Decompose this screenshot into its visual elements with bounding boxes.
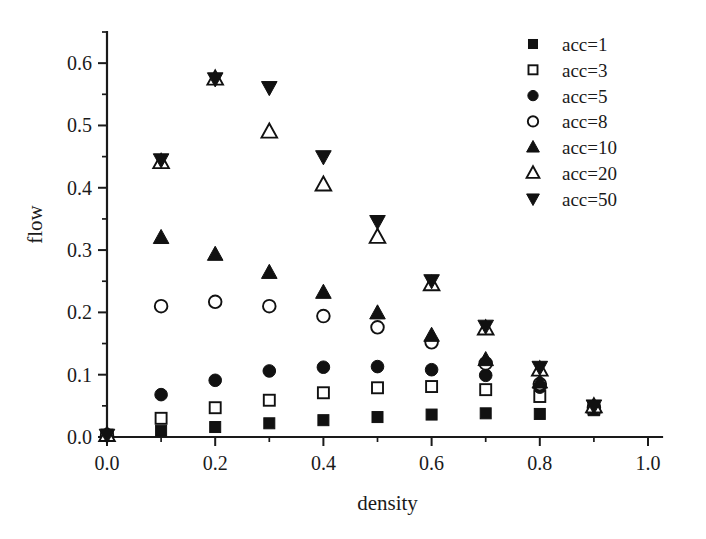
- chart-legend: acc=1acc=3acc=5acc=8acc=10acc=20acc=50: [527, 34, 617, 210]
- legend-marker-icon: [528, 65, 537, 74]
- data-point-marker: [317, 310, 330, 323]
- legend-marker-icon: [527, 166, 540, 178]
- data-point-marker: [425, 363, 438, 376]
- x-axis-title: density: [357, 491, 418, 515]
- legend-marker-icon: [528, 116, 538, 126]
- data-point-marker: [371, 360, 384, 373]
- legend-label: acc=20: [562, 163, 617, 184]
- data-point-marker: [156, 425, 167, 436]
- legend-item-acc-3: acc=3: [528, 60, 607, 81]
- data-point-marker: [316, 151, 332, 165]
- legend-label: acc=10: [562, 137, 617, 158]
- data-point-marker: [209, 295, 222, 308]
- data-point-marker: [264, 395, 275, 406]
- data-point-marker: [478, 352, 494, 366]
- series-acc-5: [101, 360, 601, 441]
- data-point-marker: [316, 284, 332, 298]
- x-axis-tick-label: 0.0: [95, 452, 120, 474]
- legend-marker-icon: [528, 39, 537, 48]
- data-point-marker: [155, 388, 168, 401]
- legend-marker-icon: [527, 194, 540, 206]
- legend-item-acc-20: acc=20: [527, 163, 617, 184]
- data-point-marker: [316, 176, 332, 190]
- data-point-marker: [370, 216, 386, 230]
- y-axis-tick-label: 0.6: [67, 52, 92, 74]
- data-point-marker: [318, 387, 329, 398]
- data-point-marker: [155, 300, 168, 313]
- data-point-marker: [479, 369, 492, 382]
- data-point-marker: [480, 408, 491, 419]
- data-point-marker: [372, 382, 383, 393]
- legend-item-acc-1: acc=1: [528, 34, 607, 55]
- data-point-marker: [534, 408, 545, 419]
- x-axis-tick-label: 0.8: [527, 452, 552, 474]
- data-point-marker: [263, 365, 276, 378]
- data-point-marker: [371, 321, 384, 334]
- data-point-marker: [209, 374, 222, 387]
- legend-label: acc=50: [562, 189, 617, 210]
- data-point-marker: [372, 412, 383, 423]
- legend-label: acc=3: [562, 60, 608, 81]
- data-point-marker: [317, 361, 330, 374]
- x-axis-tick-label: 0.6: [419, 452, 444, 474]
- data-points-group: [99, 71, 601, 444]
- data-point-marker: [210, 422, 221, 433]
- data-point-marker: [370, 305, 386, 319]
- data-point-marker: [264, 418, 275, 429]
- legend-item-acc-50: acc=50: [527, 189, 617, 210]
- legend-label: acc=1: [562, 34, 608, 55]
- data-point-marker: [262, 82, 278, 96]
- series-acc-8: [101, 295, 601, 441]
- series-acc-20: [99, 71, 601, 442]
- series-acc-10: [99, 229, 601, 441]
- data-point-marker: [426, 381, 437, 392]
- data-point-marker: [480, 384, 491, 395]
- x-axis-tick-label: 1.0: [636, 452, 661, 474]
- legend-item-acc-8: acc=8: [528, 111, 608, 132]
- legend-marker-icon: [527, 140, 540, 152]
- series-acc-1: [102, 405, 600, 441]
- legend-marker-icon: [528, 90, 538, 100]
- data-point-marker: [210, 402, 221, 413]
- y-axis-tick-label: 0.3: [67, 239, 92, 261]
- y-axis-tick-label: 0.1: [67, 364, 92, 386]
- y-axis-title: flow: [23, 204, 47, 243]
- data-point-marker: [207, 246, 223, 260]
- legend-item-acc-10: acc=10: [527, 137, 617, 158]
- data-point-marker: [426, 409, 437, 420]
- legend-label: acc=5: [562, 86, 608, 107]
- scatter-chart-figure: 0.00.10.20.30.40.50.60.00.20.40.60.81.0 …: [0, 0, 706, 539]
- y-axis-tick-label: 0.4: [67, 177, 92, 199]
- data-point-marker: [262, 123, 278, 137]
- data-point-marker: [370, 229, 386, 243]
- data-point-marker: [262, 264, 278, 278]
- y-axis-tick-label: 0.0: [67, 426, 92, 448]
- x-axis-tick-label: 0.2: [203, 452, 228, 474]
- legend-item-acc-5: acc=5: [528, 86, 608, 107]
- series-acc-50: [99, 73, 601, 444]
- legend-label: acc=8: [562, 111, 608, 132]
- data-point-marker: [318, 415, 329, 426]
- data-point-marker: [156, 413, 167, 424]
- data-point-marker: [153, 229, 169, 243]
- y-axis-tick-label: 0.2: [67, 301, 92, 323]
- data-point-marker: [424, 327, 440, 341]
- x-axis-tick-label: 0.4: [311, 452, 336, 474]
- data-point-marker: [263, 300, 276, 313]
- series-acc-3: [102, 381, 600, 441]
- y-axis-tick-label: 0.5: [67, 114, 92, 136]
- plot-canvas: 0.00.10.20.30.40.50.60.00.20.40.60.81.0 …: [0, 0, 706, 539]
